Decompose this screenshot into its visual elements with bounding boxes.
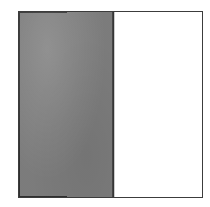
figure-rectangle bbox=[18, 11, 203, 198]
shaded-region-top-edge bbox=[19, 12, 67, 13]
region-divider-line bbox=[112, 12, 114, 197]
unshaded-region bbox=[113, 12, 202, 197]
shaded-region-left-edge bbox=[19, 12, 20, 197]
figure-canvas bbox=[0, 0, 210, 207]
shaded-region-bottom-edge bbox=[19, 196, 67, 197]
shaded-region bbox=[19, 12, 113, 197]
